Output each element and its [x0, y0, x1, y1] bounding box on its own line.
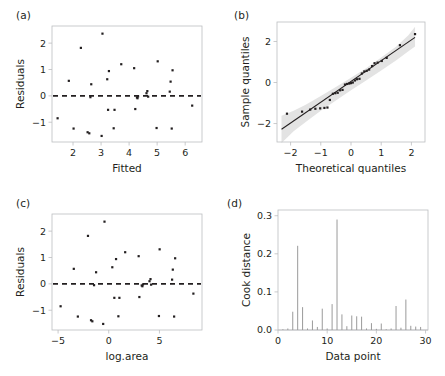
data-point: [368, 68, 370, 70]
data-point: [174, 257, 176, 259]
data-point: [124, 251, 126, 253]
data-point: [191, 105, 193, 107]
data-point: [319, 107, 321, 109]
x-tick-label: 5: [154, 147, 160, 158]
data-point: [148, 280, 150, 282]
data-point: [399, 44, 401, 46]
y-tick-label: 0.1: [257, 286, 272, 297]
data-point: [101, 135, 103, 137]
data-point: [147, 96, 149, 98]
data-point: [363, 70, 365, 72]
x-tick-label: 0: [348, 147, 354, 158]
data-point: [117, 315, 119, 317]
panel-c-plot: −505−1012log.areaResiduals: [0, 188, 222, 376]
data-point: [73, 268, 75, 270]
data-point: [134, 108, 136, 110]
y-tick-label: 0: [265, 77, 271, 88]
data-point: [371, 65, 373, 67]
y-axis-title: Sample quantiles: [239, 37, 251, 128]
data-point: [157, 60, 159, 62]
data-point: [354, 79, 356, 81]
data-point: [91, 320, 93, 322]
data-point: [133, 67, 135, 69]
y-tick-label: −2: [257, 118, 271, 129]
data-point: [376, 62, 378, 64]
data-point: [339, 89, 341, 91]
panel-a-plot: 23456−1012FittedResiduals: [0, 0, 222, 188]
y-tick-label: 0.3: [257, 210, 272, 221]
x-tick-label: 30: [419, 335, 431, 346]
data-point: [77, 315, 79, 317]
data-point: [414, 33, 416, 35]
data-point: [138, 296, 140, 298]
data-point: [68, 80, 70, 82]
data-point: [87, 235, 89, 237]
data-point: [158, 315, 160, 317]
data-point: [90, 83, 92, 85]
data-point: [113, 109, 115, 111]
data-point: [150, 284, 152, 286]
panel-d-cook-distance: (d) 01020300.00.10.20.3Data pointCook di…: [222, 188, 445, 376]
data-point: [171, 127, 173, 129]
x-tick-label: 6: [182, 147, 188, 158]
data-point: [72, 127, 74, 129]
data-point: [381, 60, 383, 62]
data-point: [113, 127, 115, 129]
y-tick-label: 2: [40, 226, 46, 237]
y-tick-label: 2: [40, 38, 46, 49]
data-point: [323, 107, 325, 109]
data-point: [326, 106, 328, 108]
x-tick-label: −5: [51, 335, 65, 346]
data-point: [171, 69, 173, 71]
data-point: [101, 33, 103, 35]
x-axis-title: log.area: [106, 350, 149, 362]
data-point: [108, 70, 110, 72]
x-axis-title: Fitted: [112, 162, 142, 174]
data-point: [138, 255, 140, 257]
diagnostic-plot-figure: (a) 23456−1012FittedResiduals (b) −2−101…: [0, 0, 445, 376]
data-point: [334, 92, 336, 94]
data-point: [173, 315, 175, 317]
data-point: [107, 109, 109, 111]
data-point: [309, 108, 311, 110]
data-point: [172, 269, 174, 271]
panel-a-residuals-vs-fitted: (a) 23456−1012FittedResiduals: [0, 0, 222, 188]
y-tick-label: 0: [40, 278, 46, 289]
y-tick-label: −1: [32, 305, 46, 316]
data-point: [386, 57, 388, 59]
data-point: [352, 81, 354, 83]
x-tick-label: 5: [156, 335, 162, 346]
x-tick-label: 4: [126, 147, 132, 158]
data-point: [344, 83, 346, 85]
x-tick-label: 2: [70, 147, 76, 158]
y-tick-label: −1: [32, 117, 46, 128]
y-axis-title: Cook distance: [240, 233, 252, 307]
data-point: [332, 93, 334, 95]
panel-c-residuals-vs-logarea: (c) −505−1012log.areaResiduals: [0, 188, 222, 376]
x-tick-label: 2: [408, 147, 414, 158]
data-point: [113, 297, 115, 299]
data-point: [137, 95, 139, 97]
data-point: [142, 283, 144, 285]
data-point: [146, 90, 148, 92]
data-point: [57, 117, 59, 119]
y-tick-label: 2: [265, 36, 271, 47]
x-tick-label: 20: [370, 335, 382, 346]
data-point: [192, 293, 194, 295]
data-point: [361, 72, 363, 74]
data-point: [155, 127, 157, 129]
plot-frame: [52, 214, 202, 330]
data-point: [169, 81, 171, 83]
panel-b-plot: −2−1012−202Theoretical quantilesSample q…: [222, 0, 445, 188]
data-point: [149, 278, 151, 280]
data-point: [169, 91, 171, 93]
y-tick-label: 0.0: [257, 324, 272, 335]
data-point: [314, 108, 316, 110]
data-point: [329, 99, 331, 101]
data-point: [358, 78, 360, 80]
data-point: [103, 221, 105, 223]
data-point: [301, 111, 303, 113]
data-point: [145, 92, 147, 94]
data-point: [171, 279, 173, 281]
y-tick-label: 1: [40, 252, 46, 263]
